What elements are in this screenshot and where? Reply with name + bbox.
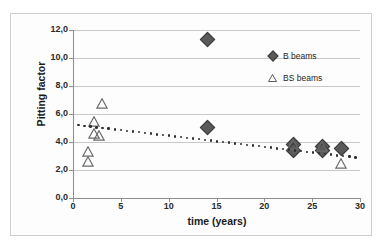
y-tick-label: 8,0	[55, 80, 68, 90]
trendline-dot	[150, 132, 153, 135]
trendline-dot	[95, 126, 98, 129]
y-axis-line	[73, 30, 74, 199]
x-tick-label: 15	[205, 201, 229, 211]
y-tick-label: 6,0	[55, 108, 68, 118]
trendline-dot	[216, 140, 219, 143]
data-point-bs-beams	[96, 98, 108, 109]
trendline-dot	[192, 137, 195, 140]
gridline	[73, 30, 360, 31]
legend-item-bs-beams: BS beams	[268, 67, 322, 89]
trendline-dot	[348, 155, 351, 158]
legend-label-bs-beams: BS beams	[283, 73, 322, 83]
trendline-dot	[89, 125, 92, 128]
open-triangle-icon	[268, 74, 277, 82]
figure-container: 0,02,04,06,08,010,012,0 051015202530 Pit…	[0, 0, 382, 249]
legend-item-b-beams: B beams	[268, 45, 322, 67]
trendline-dot	[132, 130, 135, 133]
y-tick-label: 12,0	[50, 24, 68, 34]
y-tick-label: 2,0	[55, 164, 68, 174]
data-point-bs-beams	[93, 130, 105, 141]
y-tick-label: 10,0	[50, 52, 68, 62]
data-point-bs-beams	[335, 158, 347, 169]
x-tick-label: 0	[61, 201, 85, 211]
trendline-dot	[156, 133, 159, 136]
y-axis-title: Pitting factor	[35, 39, 47, 149]
data-point-bs-beams	[316, 141, 328, 152]
filled-diamond-icon	[267, 50, 278, 61]
x-axis-title: time (years)	[73, 215, 361, 227]
trendline-dot	[174, 135, 177, 138]
trendline-dot	[354, 156, 357, 159]
chart-legend: B beams BS beams	[268, 45, 322, 89]
x-tick-label: 20	[252, 201, 276, 211]
y-tick-label: 4,0	[55, 136, 68, 146]
legend-label-b-beams: B beams	[283, 51, 317, 61]
trendline-dot	[168, 134, 171, 137]
x-tick-label: 5	[109, 201, 133, 211]
x-tick-label: 10	[157, 201, 181, 211]
x-tick-label: 30	[348, 201, 372, 211]
data-point-bs-beams	[82, 156, 94, 167]
data-point-bs-beams	[82, 146, 94, 157]
gridline	[73, 170, 360, 171]
x-tick-label: 25	[300, 201, 324, 211]
trendline-dot	[114, 128, 117, 131]
gridline	[73, 114, 360, 115]
trendline-dot	[210, 139, 213, 142]
